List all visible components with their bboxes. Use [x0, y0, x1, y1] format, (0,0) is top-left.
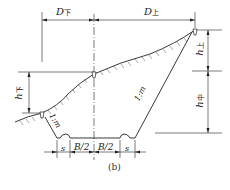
- label-h-upper: h上: [195, 42, 205, 55]
- excavation-outline: [45, 32, 192, 138]
- label-half-width-left: B/2: [74, 143, 89, 152]
- stake-center: [92, 72, 96, 78]
- label-s-right: s: [125, 145, 129, 153]
- label-D-upper: D上: [144, 7, 159, 17]
- stake-right: [193, 29, 197, 35]
- stake-markers: [40, 29, 197, 118]
- label-s-left: s: [61, 145, 65, 153]
- stake-left: [40, 112, 44, 118]
- label-h-lower: h下: [14, 86, 24, 99]
- label-h-middle: h中: [195, 94, 205, 107]
- figure-caption: (b): [108, 162, 121, 172]
- label-D-lower: D下: [56, 7, 71, 17]
- label-half-width-right: B/2: [98, 143, 113, 152]
